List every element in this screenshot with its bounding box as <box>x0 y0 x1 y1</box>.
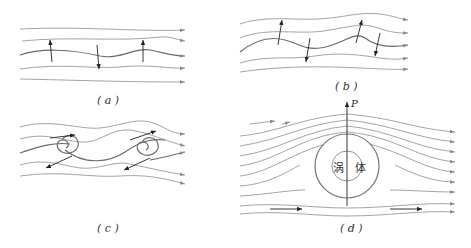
caption-d: ( d ) <box>340 222 363 235</box>
caption-a: ( a ) <box>97 94 119 107</box>
panel-b-diagram <box>240 13 408 72</box>
arrow-icon <box>50 135 75 138</box>
vortex-body-label: 涡 体 <box>333 159 371 175</box>
arrow-down-icon <box>306 38 310 62</box>
arrow-up-icon <box>278 20 282 45</box>
arrow-up-icon <box>356 20 362 43</box>
caption-b: ( b ) <box>335 80 358 93</box>
force-label-p: P <box>351 98 358 109</box>
arrow-down-icon <box>97 45 99 69</box>
figure-canvas <box>0 0 471 248</box>
panel-c-diagram <box>20 121 185 184</box>
arrow-up-icon <box>50 40 52 62</box>
panel-a-diagram <box>20 28 185 82</box>
caption-c: ( c ) <box>97 222 119 235</box>
